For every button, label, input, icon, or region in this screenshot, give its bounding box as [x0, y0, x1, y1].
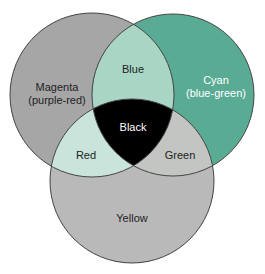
yellow-label: Yellow	[116, 212, 147, 224]
blue-label: Blue	[122, 63, 144, 75]
cyan-sublabel: (blue-green)	[186, 87, 246, 99]
green-label: Green	[165, 149, 196, 161]
magenta-label: Magenta	[36, 81, 80, 93]
cyan-label: Cyan	[203, 74, 229, 86]
magenta-sublabel: (purple-red)	[28, 94, 85, 106]
venn-diagram: Magenta (purple-red) Cyan (blue-green) B…	[0, 0, 265, 274]
red-label: Red	[76, 149, 96, 161]
black-label: Black	[120, 121, 147, 133]
